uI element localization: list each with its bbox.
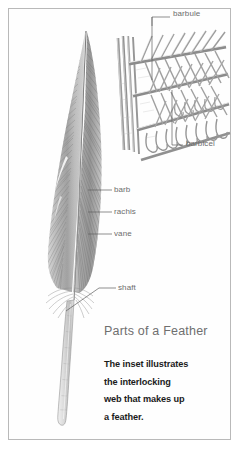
label-rachis: rachis bbox=[114, 207, 136, 216]
label-barbicel: barbicel bbox=[186, 139, 215, 148]
label-vane: vane bbox=[114, 229, 132, 238]
label-barb: barb bbox=[114, 185, 130, 194]
caption-line-3: web that makes up bbox=[104, 391, 224, 409]
caption-line-1: The inset illustrates bbox=[104, 356, 224, 374]
figure-root: barbule barbicel barb rachis vane shaft … bbox=[0, 0, 241, 458]
figure-caption: The inset illustrates the interlocking w… bbox=[104, 356, 224, 426]
caption-line-4: a feather. bbox=[104, 409, 224, 427]
caption-line-2: the interlocking bbox=[104, 374, 224, 392]
label-shaft: shaft bbox=[118, 283, 136, 292]
label-barbule: barbule bbox=[173, 9, 200, 18]
figure-title: Parts of a Feather bbox=[104, 324, 208, 338]
